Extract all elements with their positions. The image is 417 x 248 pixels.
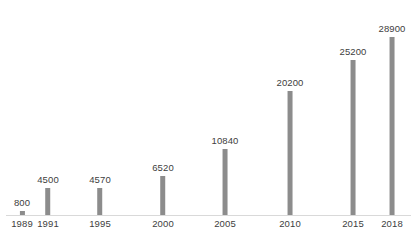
x-tick-label: 2018 bbox=[381, 218, 403, 229]
bar-value-label: 4500 bbox=[37, 174, 59, 185]
bar-value-label: 800 bbox=[14, 197, 30, 208]
bar-group: 4570 bbox=[89, 1, 111, 216]
bar-group: 20200 bbox=[277, 1, 304, 216]
x-tick-label: 2015 bbox=[342, 218, 364, 229]
bar-value-label: 28900 bbox=[379, 23, 406, 34]
x-tick-label: 2005 bbox=[214, 218, 236, 229]
bar-group: 25200 bbox=[340, 1, 367, 216]
bar-group: 10840 bbox=[212, 1, 239, 216]
bar bbox=[45, 188, 50, 216]
bar-chart: 80045004570652010840202002520028900 1989… bbox=[0, 0, 417, 248]
bar bbox=[350, 60, 355, 216]
bar-group: 28900 bbox=[379, 1, 406, 216]
x-tick-label: 2010 bbox=[279, 218, 301, 229]
bar bbox=[287, 91, 292, 216]
x-axis-tick-labels: 19891991199520002005201020152018 bbox=[0, 218, 417, 232]
bar bbox=[97, 188, 102, 216]
bar bbox=[160, 176, 165, 216]
bar-value-label: 4570 bbox=[89, 174, 111, 185]
bar-value-label: 6520 bbox=[152, 162, 174, 173]
bar-value-label: 10840 bbox=[212, 135, 239, 146]
bar-group: 6520 bbox=[152, 1, 174, 216]
bar-value-label: 20200 bbox=[277, 77, 304, 88]
bar bbox=[222, 149, 227, 216]
bar bbox=[389, 37, 394, 216]
x-tick-label: 1989 bbox=[11, 218, 33, 229]
bar-value-label: 25200 bbox=[340, 46, 367, 57]
x-axis-line bbox=[6, 215, 411, 216]
x-tick-label: 1995 bbox=[89, 218, 111, 229]
x-tick-label: 1991 bbox=[37, 218, 59, 229]
x-tick-label: 2000 bbox=[152, 218, 174, 229]
plot-area: 80045004570652010840202002520028900 bbox=[0, 0, 417, 216]
bar-group: 800 bbox=[14, 1, 30, 216]
bar-group: 4500 bbox=[37, 1, 59, 216]
